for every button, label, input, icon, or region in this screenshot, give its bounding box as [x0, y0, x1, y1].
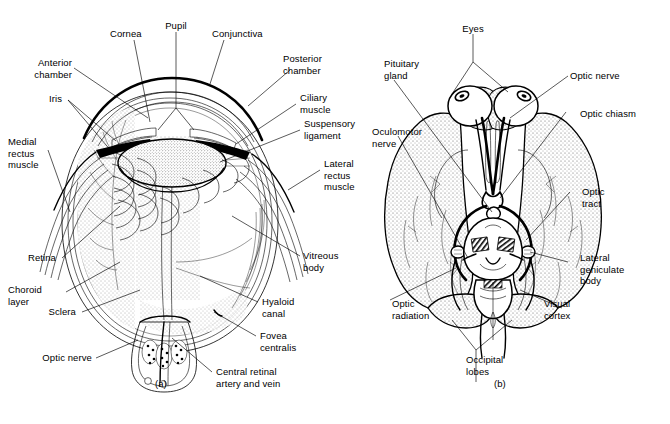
- label-fovea-centralis: Fovea centralis: [260, 330, 296, 353]
- leader-lateral-rectus: [288, 170, 320, 190]
- left-eyeball: [448, 86, 492, 126]
- label-choroid-layer: Choroid layer: [8, 284, 42, 307]
- label-optic-nerve-brain: Optic nerve: [570, 70, 620, 82]
- label-optic-chiasm: Optic chiasm: [580, 108, 636, 120]
- label-conjunctiva: Conjunctiva: [212, 28, 263, 40]
- leader-conjunctiva: [210, 40, 224, 84]
- label-oculomotor-nerve: Oculomotor nerve: [372, 126, 422, 149]
- label-lateral-rectus-muscle: Lateral rectus muscle: [324, 158, 355, 193]
- label-cornea: Cornea: [110, 28, 142, 40]
- label-occipital-lobes: Occipital lobes: [466, 354, 503, 377]
- right-lateral-geniculate-body: [521, 246, 535, 258]
- nerve-fascicles: [142, 340, 187, 369]
- label-ciliary-muscle: Ciliary muscle: [300, 92, 331, 115]
- label-iris: Iris: [0, 93, 62, 105]
- label-medial-rectus-muscle: Medial rectus muscle: [8, 136, 39, 171]
- medulla-right-edge: [504, 314, 506, 358]
- label-pituitary-gland: Pituitary gland: [384, 58, 419, 81]
- right-eyeball: [494, 86, 538, 126]
- medulla-left-edge: [481, 314, 483, 358]
- anatomy-figure: Pupil Cornea Conjunctiva Anterior chambe…: [0, 0, 670, 424]
- label-sclera: Sclera: [0, 306, 76, 318]
- caption-panel-a: (a): [155, 378, 167, 389]
- caption-panel-b: (b): [494, 378, 506, 389]
- label-optic-nerve-eye: Optic nerve: [0, 352, 92, 364]
- label-hyaloid-canal: Hyaloid canal: [262, 296, 294, 319]
- lens: [118, 139, 226, 187]
- lateral-rectus-tendon: [252, 154, 294, 212]
- label-visual-cortex: Visual cortex: [544, 298, 570, 321]
- left-cerebral-peduncle: [471, 237, 489, 252]
- label-anterior-chamber: Anterior chamber: [0, 57, 72, 80]
- label-vitreous-body: Vitreous body: [303, 250, 338, 273]
- label-suspensory-ligament: Suspensory ligament: [304, 118, 355, 141]
- pituitary-gland: [487, 207, 501, 219]
- label-eyes: Eyes: [455, 23, 491, 35]
- label-posterior-chamber: Posterior chamber: [283, 53, 322, 76]
- right-cerebral-peduncle: [497, 237, 515, 252]
- label-lateral-geniculate-body: Lateral geniculate body: [580, 252, 624, 287]
- left-lateral-geniculate-body: [451, 246, 465, 258]
- label-optic-tract: Optic tract: [582, 186, 605, 209]
- label-optic-radiation: Optic radiation: [392, 298, 429, 321]
- label-central-retinal-artery-and-vein: Central retinal artery and vein: [216, 366, 280, 389]
- label-pupil: Pupil: [156, 20, 196, 32]
- label-retina: Retina: [0, 252, 56, 264]
